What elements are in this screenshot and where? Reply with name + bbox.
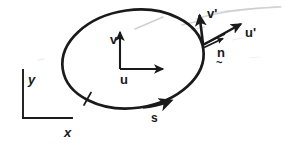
label-local-v: v <box>110 33 117 46</box>
figure-root: u v x y s u' v' n ~ <box>0 0 284 145</box>
figure-canvas <box>0 0 284 145</box>
label-u-prime: u' <box>245 26 256 39</box>
boundary-frame <box>200 15 242 48</box>
label-global-y: y <box>28 73 35 86</box>
closed-curve <box>56 1 210 118</box>
label-v-prime: v' <box>207 7 217 20</box>
label-normal-n-undertilde: ~ <box>216 57 222 68</box>
label-curve-s: s <box>151 112 158 124</box>
label-global-x: x <box>64 126 71 139</box>
label-local-u: u <box>120 73 128 86</box>
local-axes <box>120 32 163 69</box>
